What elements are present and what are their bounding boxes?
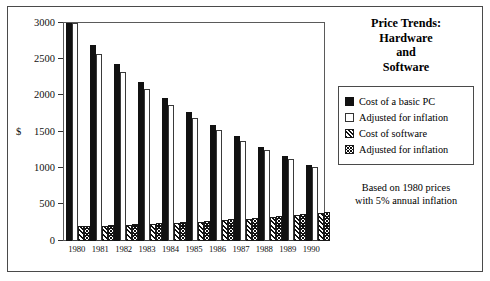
y-axis-tick-label: 1000 [34,162,58,173]
bar [120,72,126,241]
y-axis-tick-label: 2000 [34,89,58,100]
plot-panel: 050010001500200025003000$ 19801981198219… [16,6,331,260]
bar-group-1985 [186,23,210,241]
y-axis-unit-label: $ [16,125,21,137]
bar-group-1990 [306,23,330,241]
legend-label: Adjusted for inflation [359,112,448,123]
y-axis-tick-label: 3000 [34,17,58,28]
bar-group-1986 [210,23,234,241]
bar [324,212,330,241]
chart-title: Price Trends:HardwareandSoftware [338,16,474,74]
x-axis-tick-label: 1984 [159,244,182,254]
x-axis-tick-label: 1980 [65,244,88,254]
bar [168,105,174,241]
y-axis-tick: 3000 [34,16,63,28]
bar [72,23,78,241]
legend-swatch-cost-of-a-basic-pc [345,97,354,106]
x-axis: 1980198119821983198419851986198719881989… [64,244,324,254]
x-axis-tick-label: 1988 [253,244,276,254]
legend: Cost of a basic PC Adjusted for inflatio… [338,86,474,165]
y-axis-tick-label: 0 [50,235,58,246]
y-axis-tick-label: 500 [39,198,58,209]
bar-group-1984 [162,23,186,241]
legend-swatch-adjusted-for-inflation-software [345,145,354,154]
legend-swatch-adjusted-for-inflation-hardware [345,113,354,122]
bar-group-1980 [66,23,90,241]
legend-item: Cost of a basic PC [345,94,468,109]
y-axis-tick: 0 [50,234,63,246]
right-panel: Price Trends:HardwareandSoftware Cost of… [338,12,474,260]
chart-annotation: Based on 1980 priceswith 5% annual infla… [338,182,474,207]
legend-item: Adjusted for inflation [345,142,468,157]
chart-title-line: Hardware [338,31,474,46]
x-axis-tick-label: 1990 [300,244,323,254]
x-axis-tick-label: 1987 [229,244,252,254]
bar-group-1982 [114,23,138,241]
x-axis-tick-label: 1989 [276,244,299,254]
legend-swatch-cost-of-software [345,129,354,138]
bar-group-1981 [90,23,114,241]
legend-label: Adjusted for inflation [359,144,448,155]
x-axis-tick-label: 1985 [182,244,205,254]
legend-label: Cost of software [359,128,427,139]
bars-layer [64,23,324,241]
bar [96,54,102,241]
chart-title-line: and [338,45,474,60]
legend-item: Cost of software [345,126,468,141]
y-axis-tick: 2000 [34,89,63,101]
y-axis-tick-label: 2500 [34,53,58,64]
x-axis-tick-label: 1983 [135,244,158,254]
bar-group-1987 [234,23,258,241]
x-axis-tick-label: 1986 [206,244,229,254]
y-axis-tick-label: 1500 [34,126,58,137]
bar-group-1983 [138,23,162,241]
bar-group-1988 [258,23,282,241]
legend-item: Adjusted for inflation [345,110,468,125]
bar [144,89,150,241]
x-axis-tick-label: 1982 [112,244,135,254]
chart-figure: 050010001500200025003000$ 19801981198219… [0,0,490,281]
chart-title-line: Software [338,60,474,75]
y-axis: 050010001500200025003000$ [16,22,63,241]
chart-annotation-line: Based on 1980 prices [338,182,474,195]
y-axis-tick: 1500 [34,125,63,137]
y-axis-tick: 2500 [34,52,63,64]
y-axis-tick: 1000 [34,161,63,173]
chart-title-line: Price Trends: [338,16,474,31]
legend-label: Cost of a basic PC [359,96,435,107]
y-axis-tick: 500 [39,198,63,210]
bar-group-1989 [282,23,306,241]
chart-annotation-line: with 5% annual inflation [338,195,474,208]
x-axis-tick-label: 1981 [88,244,111,254]
